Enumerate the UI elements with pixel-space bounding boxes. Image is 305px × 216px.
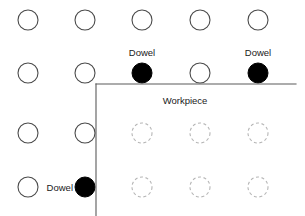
hole-open-r2c2 xyxy=(75,63,95,83)
hole-hidden-r3c3 xyxy=(132,123,152,143)
hole-open-r1c5 xyxy=(248,10,268,30)
dowel-pin-r2c5 xyxy=(248,63,268,83)
dowel-top-right-label: Dowel xyxy=(245,47,271,58)
hole-hidden-r3c4 xyxy=(190,123,210,143)
hole-open-r4c1 xyxy=(18,177,38,197)
hole-hidden-r4c4 xyxy=(190,177,210,197)
hole-open-r3c2 xyxy=(75,123,95,143)
hole-hidden-r4c5 xyxy=(248,177,268,197)
hole-grid-layer xyxy=(18,10,268,197)
dowel-workpiece-diagram: Workpiece DowelDowelDowel xyxy=(0,0,305,216)
hole-open-r3c1 xyxy=(18,123,38,143)
hole-open-r2c1 xyxy=(18,63,38,83)
dowel-pin-r4c2 xyxy=(75,177,95,197)
hole-open-r2c4 xyxy=(190,63,210,83)
workpiece-label: Workpiece xyxy=(163,95,208,106)
hole-hidden-r3c5 xyxy=(248,123,268,143)
hole-open-r1c2 xyxy=(75,10,95,30)
dowel-top-left-label: Dowel xyxy=(129,47,155,58)
hole-open-r1c4 xyxy=(190,10,210,30)
dowel-pin-r2c3 xyxy=(132,63,152,83)
hole-open-r1c3 xyxy=(132,10,152,30)
hole-open-r1c1 xyxy=(18,10,38,30)
hole-hidden-r4c3 xyxy=(132,177,152,197)
diagram-canvas: Workpiece DowelDowelDowel xyxy=(0,0,305,216)
dowel-bottom-label: Dowel xyxy=(47,182,73,193)
labels-layer: Workpiece DowelDowelDowel xyxy=(47,47,272,193)
